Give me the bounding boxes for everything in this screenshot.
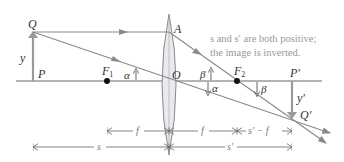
image-arrowhead-icon xyxy=(287,112,297,119)
label-a: A xyxy=(173,22,182,36)
dim-f-left-label: f xyxy=(136,125,140,136)
lens-diagram: Q P y F1 α O A β α F2 β P′ y′ Q′ s and s… xyxy=(0,0,344,162)
label-alpha-left: α xyxy=(124,69,130,81)
label-beta-upper: β xyxy=(199,68,206,80)
ray-parallel-arrow-icon xyxy=(119,29,128,35)
dim-sprime-label: s′ xyxy=(227,141,234,152)
label-f1: F1 xyxy=(101,64,113,79)
label-p-prime: P′ xyxy=(289,66,300,80)
label-beta-lower: β xyxy=(260,83,267,95)
label-y: y xyxy=(19,51,26,65)
label-alpha-right: α xyxy=(212,82,218,94)
focal-point-f2 xyxy=(234,78,240,84)
label-q-prime: Q′ xyxy=(300,108,312,122)
label-f2: F2 xyxy=(233,64,245,79)
label-p: P xyxy=(37,67,46,81)
label-o: O xyxy=(172,68,181,82)
dim-s-label: s xyxy=(97,141,101,152)
note-line-1: s and s′ are both positive; xyxy=(210,33,316,44)
ray-central-arrow-icon xyxy=(111,56,121,62)
dim-f-right-label: f xyxy=(201,125,205,136)
note-line-2: the image is inverted. xyxy=(210,47,300,58)
dim-sprime-minus-f-label: s′ − f xyxy=(248,125,270,136)
label-q: Q xyxy=(28,17,37,31)
label-y-prime: y′ xyxy=(296,91,305,105)
